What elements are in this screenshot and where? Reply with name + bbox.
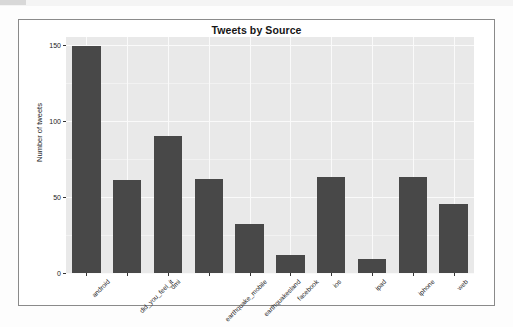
y-tick-label: 100 [49, 117, 61, 124]
scanned-page: Tweets by Source Number of tweets 050100… [0, 0, 513, 327]
x-tick-label: ios [332, 278, 343, 289]
scan-artifact-corner [0, 0, 26, 5]
bar [358, 259, 387, 273]
x-tick-label: earthquakesland [262, 278, 301, 317]
x-tick-label: android [91, 278, 112, 299]
bar [113, 180, 142, 273]
plot-panel [66, 37, 474, 273]
x-tick-label: ipad [374, 278, 388, 292]
bar [72, 46, 101, 273]
x-tick-label: dmi [169, 278, 181, 290]
bar [439, 204, 468, 273]
x-tick-label: facebook [296, 278, 320, 302]
bar [195, 179, 224, 273]
x-tick-label: web [455, 278, 469, 292]
chart-title: Tweets by Source [19, 24, 494, 36]
x-tick-label: did_you_feel_it [138, 278, 174, 314]
scan-artifact-band [0, 0, 513, 6]
bars-layer [66, 37, 474, 273]
y-axis-title: Number of tweets [35, 73, 44, 193]
bar [154, 136, 183, 273]
figure-frame: Tweets by Source Number of tweets 050100… [18, 19, 495, 306]
x-tick-label: earthquake_mobile [223, 278, 268, 323]
bar [317, 177, 346, 273]
bar [235, 224, 264, 273]
y-tick-label: 0 [57, 270, 61, 277]
y-tick-label: 50 [53, 193, 61, 200]
gridline-horizontal [66, 273, 474, 274]
x-tick-label: iphone [417, 278, 436, 297]
bar [399, 177, 428, 273]
y-tick-label: 150 [49, 41, 61, 48]
bar [276, 255, 305, 273]
